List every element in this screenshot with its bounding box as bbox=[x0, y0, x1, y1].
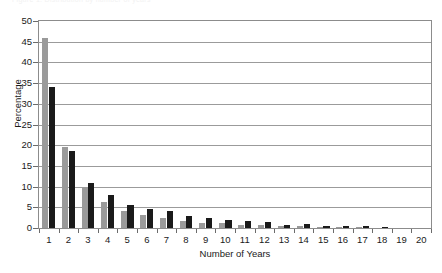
bar bbox=[304, 224, 310, 228]
x-axis-tick-mark bbox=[215, 229, 216, 233]
x-axis-tick-mark bbox=[176, 229, 177, 233]
bar-group bbox=[62, 21, 75, 228]
x-axis-tick-mark bbox=[117, 229, 118, 233]
x-axis-tick-label: 20 bbox=[409, 234, 433, 245]
x-axis-tick-mark bbox=[235, 229, 236, 233]
bar-group bbox=[278, 21, 291, 228]
bar-group bbox=[180, 21, 193, 228]
bar bbox=[317, 227, 323, 228]
x-axis-tick-mark bbox=[157, 229, 158, 233]
x-axis-title: Number of Years bbox=[38, 248, 432, 259]
x-axis-tick-mark bbox=[39, 229, 40, 233]
bar-group bbox=[317, 21, 330, 228]
bar-group bbox=[82, 21, 95, 228]
y-axis-tick-label: 30 bbox=[4, 99, 32, 109]
bar-group bbox=[101, 21, 114, 228]
bar bbox=[245, 221, 251, 228]
bar bbox=[219, 223, 225, 228]
x-axis-tick-mark bbox=[431, 229, 432, 233]
bar bbox=[238, 225, 244, 228]
y-axis-tick-label: 15 bbox=[4, 161, 32, 171]
bar-group bbox=[219, 21, 232, 228]
x-axis-tick-mark bbox=[411, 229, 412, 233]
x-axis-tick-mark bbox=[392, 229, 393, 233]
bar-group bbox=[238, 21, 251, 228]
bar-group bbox=[297, 21, 310, 228]
x-axis-tick-mark bbox=[313, 229, 314, 233]
bar-group bbox=[140, 21, 153, 228]
bar bbox=[343, 226, 349, 228]
bar bbox=[147, 209, 153, 228]
bar bbox=[82, 187, 88, 228]
bar bbox=[160, 218, 166, 228]
x-axis-tick-mark bbox=[294, 229, 295, 233]
bar bbox=[382, 227, 388, 228]
x-axis-tick-mark bbox=[98, 229, 99, 233]
x-axis-tick-mark bbox=[333, 229, 334, 233]
bar bbox=[42, 38, 48, 228]
bar bbox=[140, 215, 146, 228]
bar-group bbox=[336, 21, 349, 228]
bar bbox=[108, 195, 114, 228]
bar-group bbox=[160, 21, 173, 228]
y-axis-tick-label: 10 bbox=[4, 182, 32, 192]
x-axis-tick-mark bbox=[274, 229, 275, 233]
y-axis-tick-label: 20 bbox=[4, 140, 32, 150]
y-axis-tick-label: 0 bbox=[4, 223, 32, 233]
bar bbox=[258, 225, 264, 228]
y-axis-tick-label: 5 bbox=[4, 202, 32, 212]
bar-group bbox=[415, 21, 428, 228]
bar bbox=[62, 147, 68, 228]
bar-group bbox=[42, 21, 55, 228]
x-axis-tick-mark bbox=[78, 229, 79, 233]
bar bbox=[199, 223, 205, 228]
bar bbox=[167, 211, 173, 228]
y-axis-tick-label: 40 bbox=[4, 57, 32, 67]
bar-group bbox=[121, 21, 134, 228]
bar bbox=[356, 227, 362, 228]
bar bbox=[88, 183, 94, 228]
bar-group bbox=[356, 21, 369, 228]
bar bbox=[180, 221, 186, 228]
bar bbox=[121, 211, 127, 228]
bar bbox=[278, 226, 284, 228]
y-axis-tick-label: 50 bbox=[4, 16, 32, 26]
bars-layer bbox=[39, 21, 431, 228]
bar bbox=[127, 205, 133, 228]
bar bbox=[363, 226, 369, 228]
bar bbox=[323, 226, 329, 228]
bar bbox=[225, 220, 231, 228]
x-axis-tick-mark bbox=[255, 229, 256, 233]
bar bbox=[336, 227, 342, 228]
x-axis-tick-mark bbox=[59, 229, 60, 233]
bar-group bbox=[395, 21, 408, 228]
bar bbox=[69, 151, 75, 228]
bar bbox=[206, 218, 212, 228]
bar bbox=[297, 226, 303, 228]
x-axis-tick-mark bbox=[372, 229, 373, 233]
figure-caption: Figure 1. Distribution by number of year… bbox=[12, 0, 372, 6]
y-axis-tick-label: 35 bbox=[4, 78, 32, 88]
y-axis-tick-label: 25 bbox=[4, 120, 32, 130]
bar bbox=[265, 222, 271, 228]
x-axis-tick-mark bbox=[353, 229, 354, 233]
bar bbox=[284, 225, 290, 228]
bar bbox=[186, 216, 192, 228]
x-axis-tick-mark bbox=[137, 229, 138, 233]
bar-group bbox=[258, 21, 271, 228]
bar bbox=[49, 87, 55, 228]
bar-group bbox=[376, 21, 389, 228]
y-axis-tick-label: 45 bbox=[4, 37, 32, 47]
bar bbox=[101, 202, 107, 228]
x-axis-tick-mark bbox=[196, 229, 197, 233]
bar-group bbox=[199, 21, 212, 228]
bar-chart-figure: Figure 1. Distribution by number of year… bbox=[0, 0, 442, 273]
